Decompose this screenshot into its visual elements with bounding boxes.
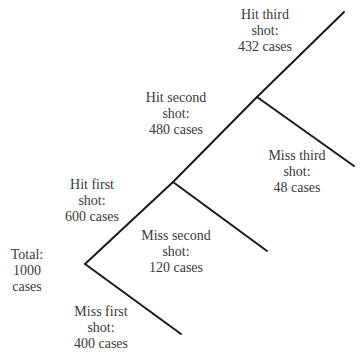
total-label-line1: Total: <box>11 247 43 263</box>
miss-first-line1: Miss first <box>74 304 128 320</box>
total-label-line3: cases <box>11 279 43 295</box>
hit-first-line3: 600 cases <box>65 209 119 225</box>
hit-second-line3: 480 cases <box>146 122 206 138</box>
miss-second-line3: 120 cases <box>141 260 211 276</box>
node-label-miss-second: Miss second shot: 120 cases <box>141 228 211 276</box>
total-label-line2: 1000 <box>11 263 43 279</box>
hit-first-line2: shot: <box>65 193 119 209</box>
hit-third-line3: 432 cases <box>238 39 292 55</box>
hit-second-line2: shot: <box>146 106 206 122</box>
miss-third-line1: Miss third <box>268 148 325 164</box>
miss-third-line2: shot: <box>268 164 325 180</box>
hit-first-line1: Hit first <box>65 177 119 193</box>
miss-first-line3: 400 cases <box>74 336 128 352</box>
node-label-hit-third: Hit third shot: 432 cases <box>238 7 292 55</box>
miss-first-line2: shot: <box>74 320 128 336</box>
node-label-miss-third: Miss third shot: 48 cases <box>268 148 325 196</box>
hit-third-line2: shot: <box>238 23 292 39</box>
miss-second-line2: shot: <box>141 244 211 260</box>
miss-third-line3: 48 cases <box>268 180 325 196</box>
node-label-hit-first: Hit first shot: 600 cases <box>65 177 119 225</box>
node-label-miss-first: Miss first shot: 400 cases <box>74 304 128 352</box>
hit-second-line1: Hit second <box>146 90 206 106</box>
hit-third-line1: Hit third <box>238 7 292 23</box>
node-label-hit-second: Hit second shot: 480 cases <box>146 90 206 138</box>
node-label-total: Total: 1000 cases <box>11 247 43 295</box>
miss-second-line1: Miss second <box>141 228 211 244</box>
